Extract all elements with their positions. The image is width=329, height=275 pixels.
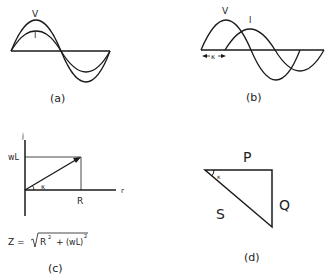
panel-d-angle-arc [212,170,214,176]
formula-r-term: R [40,237,46,247]
panel-a-voltage-label: V [32,9,39,19]
panel-c-imag-axis-label: j [21,132,24,140]
formula-exp1: 2 [48,234,51,240]
diagram-canvas: V I (a) κ V I (b) j r wL R κ Z = R [0,0,329,275]
panel-a-caption: (a) [50,92,65,105]
panel-c-impedance-vector [25,158,79,190]
formula-lhs: Z = [8,237,25,247]
panel-b-phase-arrow-left [202,54,207,58]
panel-c-real-axis-label: r [121,187,124,195]
panel-a: V I (a) [11,9,110,105]
panel-c: j r wL R κ Z = R 2 + (wL) 2 (c) [8,132,124,275]
panel-c-formula: Z = R 2 + (wL) 2 [8,233,88,247]
panel-b-voltage-label: V [222,6,229,16]
formula-exp2: 2 [84,233,87,239]
panel-a-current-label: I [34,31,36,40]
formula-wl-term: (wL) [66,238,83,247]
panel-c-vector-arrowhead [73,157,81,163]
panel-d-caption: (d) [244,251,260,264]
panel-b-caption: (b) [246,91,262,104]
formula-plus: + [56,237,64,247]
panel-d-angle-label: κ [217,173,221,180]
panel-d: P Q S κ (d) [205,149,290,264]
panel-d-reactive-power-label: Q [279,197,290,213]
panel-b-current-label: I [249,16,251,25]
panel-b-phase-arrow-right [221,54,226,58]
panel-c-resistance-label: R [77,196,83,206]
panel-d-real-power-label: P [243,149,251,165]
panel-c-angle-arc [33,186,35,191]
panel-c-caption: (c) [48,262,63,275]
panel-c-angle-label: κ [41,183,45,191]
panel-d-apparent-power-label: S [216,206,225,222]
panel-b: κ V I (b) [201,6,324,104]
panel-c-reactance-label: wL [8,153,20,162]
panel-b-phase-label: κ [211,53,215,61]
